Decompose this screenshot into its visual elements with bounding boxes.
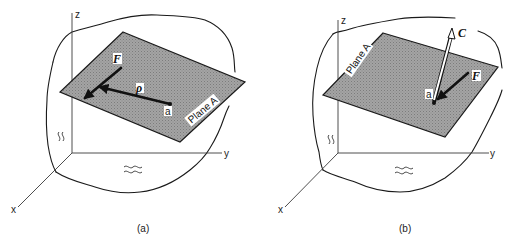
point-a-label: a <box>426 89 432 100</box>
z-axis-label: z <box>341 15 346 26</box>
x-axis-label: x <box>11 204 16 215</box>
force-label-f: F <box>471 69 480 83</box>
panel-a: z y x F ρ a Plane A (a) <box>11 9 245 234</box>
body-outline-left <box>313 34 333 170</box>
caption-a: (a) <box>137 223 149 234</box>
force-label-f: F <box>112 52 121 66</box>
rho-label: ρ <box>135 81 142 95</box>
caption-b: (b) <box>399 223 411 234</box>
y-axis-label: y <box>490 148 495 159</box>
z-axis-label: z <box>75 9 80 20</box>
break-mark-horizontal <box>124 166 142 173</box>
break-mark-vertical <box>58 132 64 141</box>
plane-a <box>60 32 245 142</box>
point-a-label: a <box>165 106 171 117</box>
break-mark-horizontal <box>395 167 413 174</box>
panel-b: z y x Plane A C F a (b) <box>278 15 502 234</box>
point-a <box>432 101 436 105</box>
couple-label-c: C <box>458 26 467 40</box>
x-axis <box>285 153 338 207</box>
couple-arrowhead-icon <box>448 28 455 39</box>
figure: z y x F ρ a Plane A (a) <box>0 0 515 245</box>
body-outline-left <box>46 62 56 172</box>
y-axis-label: y <box>224 148 229 159</box>
body-outline-top <box>333 17 455 34</box>
plane-a <box>323 33 498 137</box>
x-axis <box>18 153 72 207</box>
break-mark-vertical <box>328 135 334 144</box>
x-axis-label: x <box>278 204 283 215</box>
